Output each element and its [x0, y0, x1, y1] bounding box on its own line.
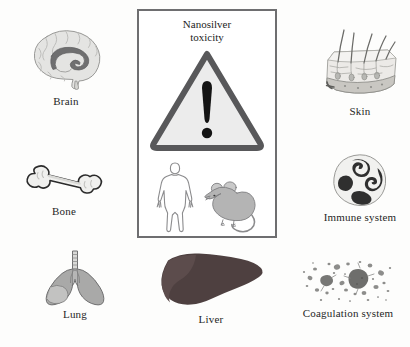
organ-node-liver: Liver: [148, 250, 274, 325]
platelets-icon: [298, 256, 398, 306]
organ-label-brain: Brain: [53, 95, 78, 107]
specimen-group: [139, 159, 275, 235]
organ-label-lung: Lung: [63, 308, 87, 320]
brain-icon: [25, 26, 107, 94]
liver-icon: [155, 250, 267, 312]
organ-node-skin: Skin: [316, 24, 404, 117]
organ-label-immune-system: Immune system: [324, 211, 397, 223]
organ-node-coagulation-system: Coagulation system: [287, 256, 409, 319]
mouse-figure-icon: [201, 175, 263, 235]
organ-label-bone: Bone: [52, 205, 76, 217]
organ-label-coagulation-system: Coagulation system: [303, 307, 394, 319]
lung-icon: [37, 249, 113, 307]
human-figure-icon: [152, 159, 198, 235]
organ-label-skin: Skin: [350, 105, 371, 117]
panel-title-line2: toxicity: [139, 31, 275, 44]
skin-icon: [318, 24, 402, 104]
panel-title-line1: Nanosilver: [139, 18, 275, 31]
bone-icon: [16, 158, 112, 204]
organ-node-lung: Lung: [23, 249, 127, 320]
immune-cell-icon: [329, 152, 391, 210]
organ-node-immune-system: Immune system: [310, 152, 410, 223]
organ-label-liver: Liver: [199, 313, 224, 325]
panel-title: Nanosilver toxicity: [139, 18, 275, 44]
warning-triangle-icon: [148, 47, 266, 151]
nanosilver-toxicity-figure: Nanosilver toxicity: [0, 0, 410, 347]
central-panel: Nanosilver toxicity: [137, 9, 277, 238]
organ-node-bone: Bone: [8, 158, 120, 217]
organ-node-brain: Brain: [14, 26, 118, 107]
